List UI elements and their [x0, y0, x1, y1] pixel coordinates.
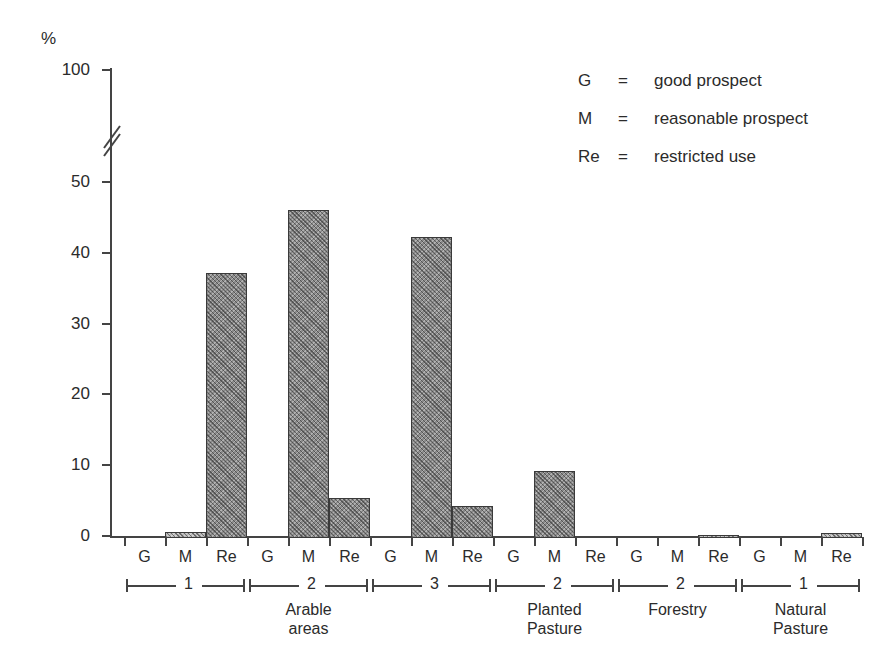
- bar-arable-areas-1-M: [165, 532, 206, 538]
- x-tick: [452, 537, 454, 546]
- legend-text: restricted use: [654, 148, 756, 165]
- y-tick-label-20: 20: [28, 385, 90, 402]
- region-label-arable-areas: Arableareas: [124, 600, 493, 638]
- bar-planted-pasture-2-M: [534, 471, 575, 538]
- group-bracket-cap: [372, 579, 374, 592]
- group-bracket-cap: [741, 579, 743, 592]
- x-label-G: G: [493, 549, 534, 565]
- bar-arable-areas-3-M: [411, 237, 452, 538]
- x-tick: [247, 537, 249, 546]
- bar-arable-areas-2-Re: [329, 498, 370, 538]
- group-number: 1: [791, 576, 817, 592]
- group-bracket-cap: [126, 579, 128, 592]
- region-label-forestry: Forestry: [616, 600, 739, 619]
- x-tick: [493, 537, 495, 546]
- y-tick-label-40: 40: [28, 244, 90, 261]
- bars-container: [110, 68, 855, 538]
- y-tick-label-0: 0: [28, 527, 90, 544]
- x-tick: [657, 537, 659, 546]
- x-label-G: G: [370, 549, 411, 565]
- x-label-M: M: [534, 549, 575, 565]
- x-label-M: M: [165, 549, 206, 565]
- legend-equals: =: [618, 110, 628, 127]
- y-tick-label-30: 30: [28, 315, 90, 332]
- bar-arable-areas-3-Re: [452, 506, 493, 538]
- x-label-M: M: [780, 549, 821, 565]
- bar-arable-areas-2-M: [288, 210, 329, 538]
- x-tick: [862, 537, 864, 546]
- chart-root: % 01020304050100 GMReGMReGMReGMReGMReGMR…: [0, 0, 869, 658]
- x-tick: [780, 537, 782, 546]
- legend-key: M: [578, 110, 612, 127]
- x-label-G: G: [616, 549, 657, 565]
- x-tick: [616, 537, 618, 546]
- group-number: 2: [545, 576, 571, 592]
- x-tick: [739, 537, 741, 546]
- x-label-Re: Re: [575, 549, 616, 565]
- group-bracket-cap: [612, 579, 614, 592]
- x-tick: [698, 537, 700, 546]
- legend-key: Re: [578, 148, 612, 165]
- group-bracket-cap: [243, 579, 245, 592]
- x-label-Re: Re: [452, 549, 493, 565]
- x-tick: [288, 537, 290, 546]
- y-axis-unit-label: %: [41, 30, 56, 47]
- region-label-natural-pasture: NaturalPasture: [739, 600, 862, 638]
- x-label-G: G: [124, 549, 165, 565]
- bar-arable-areas-1-Re: [206, 273, 247, 539]
- group-bracket-cap: [366, 579, 368, 592]
- group-bracket-cap: [735, 579, 737, 592]
- x-label-Re: Re: [329, 549, 370, 565]
- x-label-Re: Re: [206, 549, 247, 565]
- legend-equals: =: [618, 148, 628, 165]
- x-label-Re: Re: [821, 549, 862, 565]
- x-label-G: G: [247, 549, 288, 565]
- group-bracket-cap: [249, 579, 251, 592]
- group-bracket-cap: [495, 579, 497, 592]
- group-number: 1: [176, 576, 202, 592]
- group-bracket-cap: [489, 579, 491, 592]
- y-tick-label-50: 50: [28, 173, 90, 190]
- x-tick: [329, 537, 331, 546]
- x-tick: [124, 537, 126, 546]
- group-bracket-cap: [858, 579, 860, 592]
- bar-forestry-2-Re: [698, 535, 739, 538]
- legend-key: G: [578, 72, 612, 89]
- bar-natural-pasture-1-Re: [821, 533, 862, 538]
- x-tick: [821, 537, 823, 546]
- x-tick: [206, 537, 208, 546]
- legend-equals: =: [618, 72, 628, 89]
- x-label-M: M: [288, 549, 329, 565]
- plot-area: % 01020304050100 GMReGMReGMReGMReGMReGMR…: [0, 0, 869, 658]
- group-number: 3: [422, 576, 448, 592]
- x-tick: [411, 537, 413, 546]
- x-tick: [534, 537, 536, 546]
- legend-text: good prospect: [654, 72, 762, 89]
- y-tick-label-10: 10: [28, 456, 90, 473]
- group-bracket-cap: [618, 579, 620, 592]
- y-tick-label-100: 100: [28, 61, 90, 78]
- x-tick: [370, 537, 372, 546]
- region-label-planted-pasture: PlantedPasture: [493, 600, 616, 638]
- x-tick: [165, 537, 167, 546]
- x-tick: [575, 537, 577, 546]
- group-number: 2: [299, 576, 325, 592]
- x-label-M: M: [657, 549, 698, 565]
- group-number: 2: [668, 576, 694, 592]
- x-label-M: M: [411, 549, 452, 565]
- x-label-Re: Re: [698, 549, 739, 565]
- legend-text: reasonable prospect: [654, 110, 808, 127]
- x-label-G: G: [739, 549, 780, 565]
